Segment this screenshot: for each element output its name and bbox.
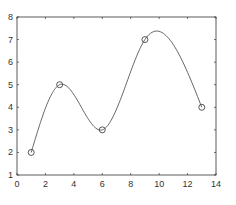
y-tick-label: 6: [8, 57, 13, 67]
chart-background: [0, 0, 236, 205]
x-tick-label: 2: [43, 179, 48, 189]
x-tick-label: 8: [128, 179, 133, 189]
y-tick-label: 3: [8, 125, 13, 135]
x-tick-label: 14: [211, 179, 221, 189]
line-chart: 0246810121412345678: [0, 0, 236, 205]
x-tick-label: 6: [100, 179, 105, 189]
y-tick-label: 1: [8, 170, 13, 180]
x-tick-label: 12: [183, 179, 193, 189]
x-tick-label: 10: [154, 179, 164, 189]
y-tick-label: 5: [8, 80, 13, 90]
x-tick-label: 0: [14, 179, 19, 189]
y-tick-label: 4: [8, 102, 13, 112]
y-tick-label: 8: [8, 12, 13, 22]
y-tick-label: 2: [8, 147, 13, 157]
y-tick-label: 7: [8, 35, 13, 45]
x-tick-label: 4: [71, 179, 76, 189]
